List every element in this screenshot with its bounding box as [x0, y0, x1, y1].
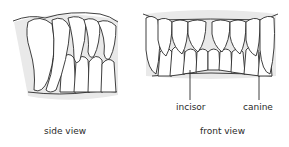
teeth-illustration	[0, 0, 289, 147]
side-view-caption: side view	[44, 126, 86, 136]
incisor-label: incisor	[176, 102, 206, 112]
canine-label: canine	[243, 102, 273, 112]
side-view-drawing	[13, 13, 118, 100]
teeth-diagram: side view front view incisor canine	[0, 0, 289, 147]
front-view-caption: front view	[200, 126, 245, 136]
front-view-drawing	[143, 10, 278, 100]
